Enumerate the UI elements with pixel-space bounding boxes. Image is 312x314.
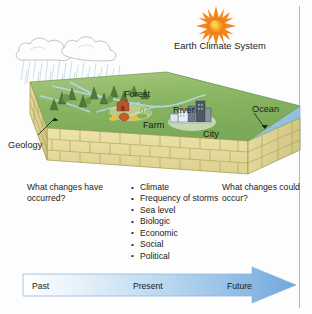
list-item: Sea level xyxy=(131,205,227,216)
list-item: Political xyxy=(131,251,227,262)
timeline: Past Present Future xyxy=(22,272,298,302)
figure-panel: Forest River Farm City Ocean Geology Ear… xyxy=(0,0,312,314)
change-categories-list: Climate Frequency of storms Sea level Bi… xyxy=(131,182,227,262)
list-item: Biologic xyxy=(131,216,227,227)
timeline-label-past: Past xyxy=(32,281,49,291)
list-item: Economic xyxy=(131,228,227,239)
figure-caption xyxy=(14,307,284,314)
sun-icon xyxy=(196,6,236,46)
label-river: River xyxy=(173,105,194,115)
label-city: City xyxy=(203,129,219,139)
timeline-label-present: Present xyxy=(133,281,163,291)
question-future: What changes could occur? xyxy=(222,182,308,205)
label-ocean: Ocean xyxy=(252,104,279,114)
timeline-label-future: Future xyxy=(227,281,252,291)
page-title: Earth Climate System xyxy=(174,41,266,51)
label-farm: Farm xyxy=(143,120,165,130)
label-geology: Geology xyxy=(8,140,43,150)
cloud-icon xyxy=(16,37,116,61)
list-item: Social xyxy=(131,239,227,250)
question-past: What changes have occurred? xyxy=(27,182,113,205)
label-forest: Forest xyxy=(124,89,150,99)
list-item: Frequency of storms xyxy=(131,193,227,204)
list-item: Climate xyxy=(131,182,227,193)
